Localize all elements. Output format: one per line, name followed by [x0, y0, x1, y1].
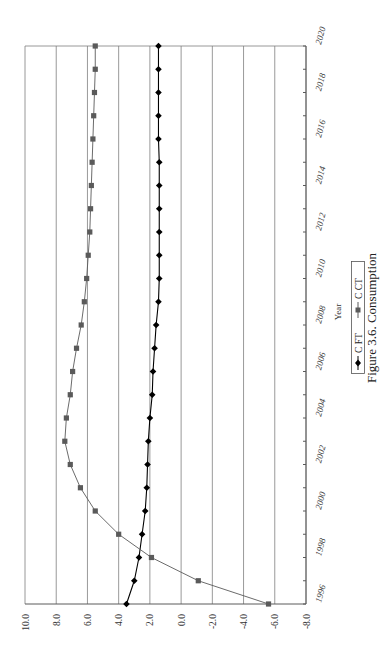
diamond-marker-icon — [147, 415, 154, 422]
square-marker-icon — [93, 67, 98, 72]
value-tick-label: 0.0 — [177, 614, 187, 626]
square-marker-icon — [90, 136, 95, 141]
square-marker-icon — [86, 253, 91, 258]
year-tick-label: 2016 — [313, 118, 327, 138]
diamond-marker-icon — [131, 577, 138, 584]
value-tick-label: 4.0 — [114, 614, 124, 626]
square-marker-icon — [92, 90, 97, 95]
square-marker-icon — [91, 113, 96, 118]
year-tick-label: 2012 — [313, 211, 327, 231]
year-tick-label: 2000 — [313, 490, 327, 510]
diamond-marker-icon — [155, 136, 162, 143]
year-tick-label: 2006 — [313, 351, 327, 371]
figure-caption: Figure 3.6. Consumption — [364, 253, 379, 384]
axes — [25, 46, 306, 604]
square-marker-icon — [74, 346, 79, 351]
diamond-marker-icon — [155, 298, 162, 305]
year-axis-tick-labels: 1996199820002002200420062008201020122014… — [313, 25, 327, 603]
square-marker-icon — [88, 206, 93, 211]
diamond-marker-icon — [156, 159, 163, 166]
diamond-marker-icon — [156, 182, 163, 189]
square-marker-icon — [90, 160, 95, 165]
square-marker-icon — [64, 415, 69, 420]
diamond-marker-icon — [151, 345, 158, 352]
value-tick-label: -4.0 — [239, 614, 249, 629]
square-marker-icon — [68, 462, 73, 467]
year-tick-label: 2004 — [313, 397, 327, 417]
square-marker-icon — [82, 299, 87, 304]
year-tick-label: 2010 — [313, 258, 327, 278]
consumption-chart: 10.08.06.04.02.00.0-2.0-4.0-6.0-8.0 1996… — [0, 0, 385, 659]
diamond-marker-icon — [150, 368, 157, 375]
data-series — [62, 43, 271, 608]
series-line-c-ct — [65, 46, 269, 604]
square-marker-icon — [196, 578, 201, 583]
value-tick-label: 10.0 — [21, 614, 31, 631]
year-tick-label: 1996 — [313, 583, 327, 603]
diamond-marker-icon — [156, 229, 163, 236]
value-tick-label: 2.0 — [145, 614, 155, 626]
diamond-marker-icon — [142, 508, 149, 515]
diamond-marker-icon — [136, 554, 143, 561]
value-tick-label: -2.0 — [208, 614, 218, 629]
square-marker-icon — [78, 485, 83, 490]
square-marker-icon — [116, 532, 121, 537]
value-tick-label: -6.0 — [270, 614, 280, 629]
diamond-marker-icon — [145, 438, 152, 445]
square-marker-icon — [87, 229, 92, 234]
value-tick-label: 8.0 — [52, 614, 62, 626]
square-marker-icon — [356, 308, 361, 313]
square-marker-icon — [266, 601, 271, 606]
legend-label-ct: C CT — [354, 278, 364, 299]
square-marker-icon — [70, 369, 75, 374]
legend: C FT C CT — [352, 262, 365, 374]
diamond-marker-icon — [156, 275, 163, 282]
square-marker-icon — [68, 392, 73, 397]
x-axis-title: Year — [333, 304, 343, 321]
year-tick-label: 2018 — [313, 72, 327, 92]
year-tick-label: 1998 — [313, 537, 327, 557]
square-marker-icon — [62, 439, 67, 444]
diamond-marker-icon — [156, 205, 163, 212]
year-tick-label: 2014 — [313, 165, 327, 185]
value-tick-label: -8.0 — [302, 614, 312, 629]
value-axis-tick-labels: 10.08.06.04.02.00.0-2.0-4.0-6.0-8.0 — [21, 614, 312, 631]
diamond-marker-icon — [123, 601, 130, 608]
diamond-marker-icon — [155, 43, 162, 50]
year-tick-label: 2020 — [313, 25, 327, 45]
square-marker-icon — [89, 183, 94, 188]
square-marker-icon — [79, 322, 84, 327]
diamond-marker-icon — [143, 484, 150, 491]
square-marker-icon — [93, 43, 98, 48]
square-marker-icon — [84, 276, 89, 281]
gridlines — [25, 46, 306, 604]
diamond-marker-icon — [156, 252, 163, 259]
square-marker-icon — [93, 508, 98, 513]
diamond-marker-icon — [139, 531, 146, 538]
year-tick-label: 2002 — [313, 444, 327, 464]
legend-label-ft: C FT — [354, 333, 364, 353]
year-tick-label: 2008 — [313, 304, 327, 324]
diamond-marker-icon — [153, 322, 160, 329]
diamond-marker-icon — [155, 66, 162, 73]
diamond-marker-icon — [155, 112, 162, 119]
value-tick-label: 6.0 — [83, 614, 93, 626]
square-marker-icon — [149, 555, 154, 560]
diamond-marker-icon — [155, 89, 162, 96]
